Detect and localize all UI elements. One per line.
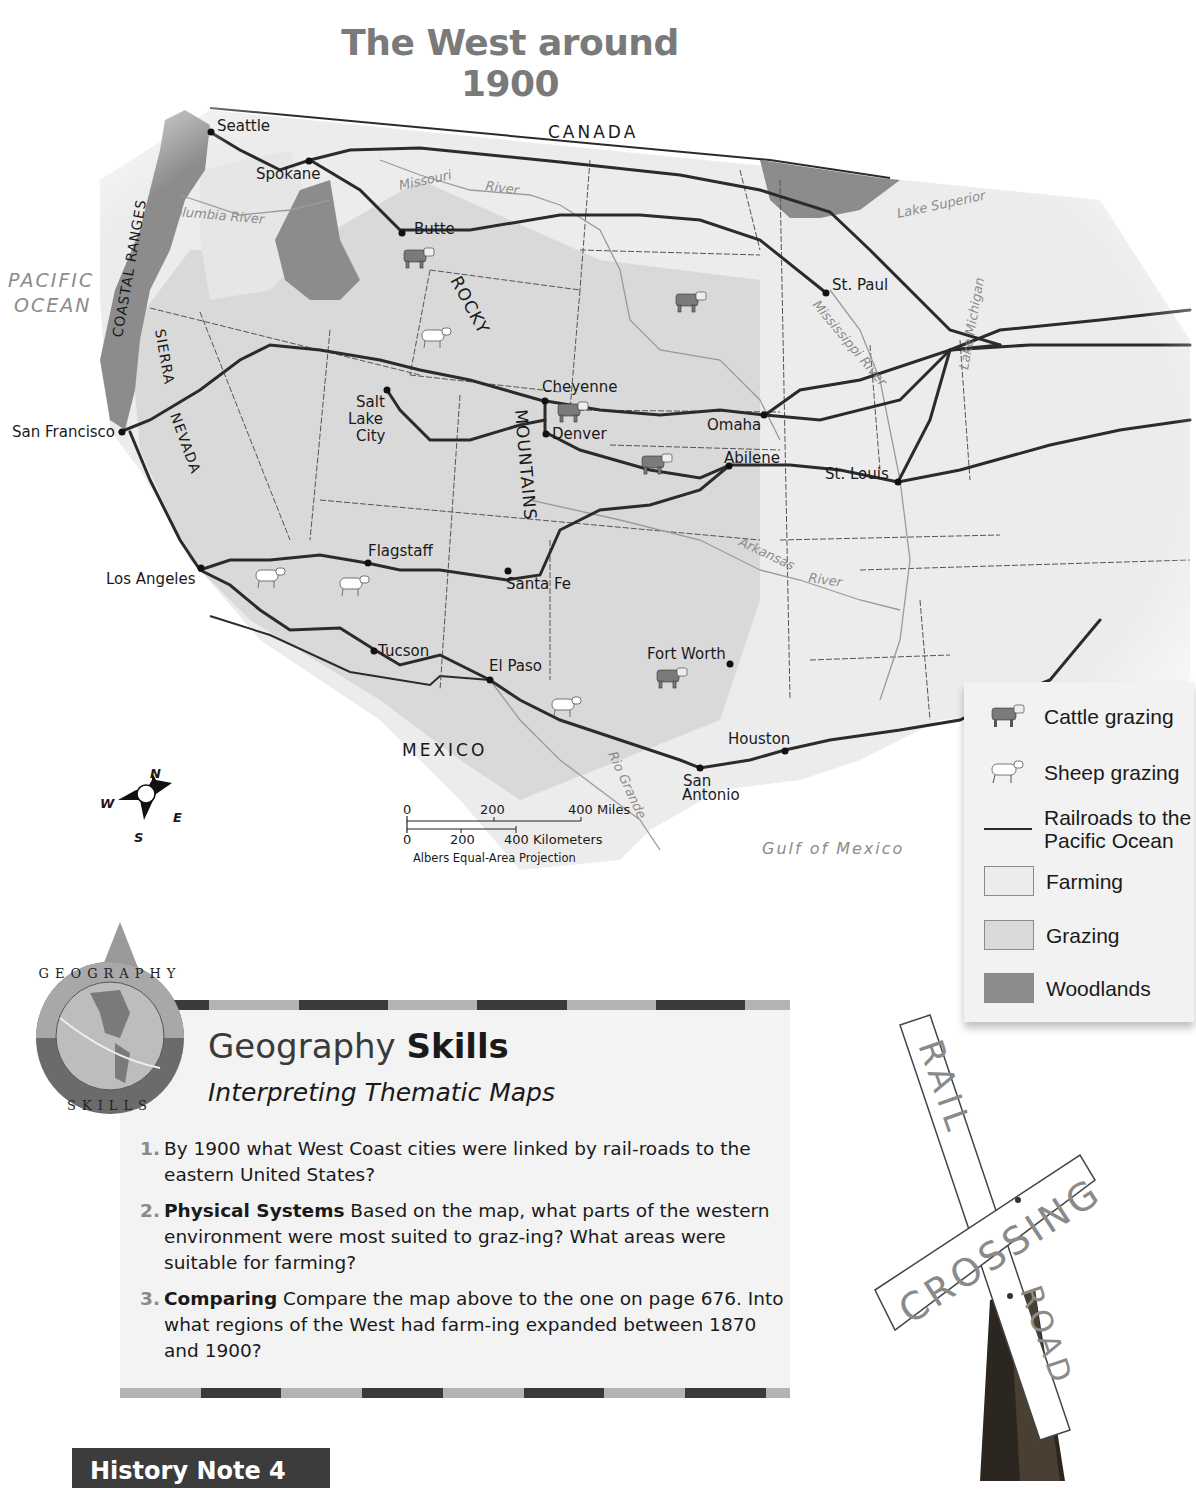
scale-miles-200: 200 bbox=[480, 802, 505, 817]
scale-km-0: 0 bbox=[403, 832, 411, 847]
badge-skills-text: SKILLS bbox=[67, 1098, 153, 1113]
question-number: 3. bbox=[132, 1286, 160, 1312]
legend-sheep: Sheep grazing bbox=[964, 760, 1179, 784]
label-mexico: MEXICO bbox=[402, 740, 487, 760]
legend-label-line2: Pacific Ocean bbox=[1044, 829, 1174, 852]
stripe-bottom bbox=[120, 1388, 790, 1398]
city-tucson: Tucson bbox=[377, 642, 429, 660]
geography-skills-box: Geography Skills Interpreting Thematic M… bbox=[120, 1000, 790, 1398]
city-st-paul: St. Paul bbox=[832, 276, 888, 294]
compass-s: S bbox=[134, 830, 143, 845]
farming-swatch bbox=[984, 866, 1034, 896]
city-santa-fe: Santa Fe bbox=[506, 575, 571, 593]
city-salt-lake-3: City bbox=[356, 427, 386, 445]
history-note-heading: History Note 4 bbox=[72, 1448, 330, 1488]
label-canada: CANADA bbox=[548, 122, 638, 142]
city-el-paso: El Paso bbox=[489, 657, 542, 675]
city-houston: Houston bbox=[728, 730, 790, 748]
city-fort-worth: Fort Worth bbox=[647, 645, 726, 663]
legend-label: Sheep grazing bbox=[1044, 761, 1179, 784]
label-pacific-1: PACIFIC bbox=[8, 269, 94, 291]
city-spokane: Spokane bbox=[256, 165, 321, 183]
legend-label: Railroads to the Pacific Ocean bbox=[1044, 806, 1191, 852]
city-salt-lake-2: Lake bbox=[348, 410, 383, 428]
city-cheyenne: Cheyenne bbox=[542, 378, 618, 396]
compass-e: E bbox=[173, 810, 182, 825]
map-legend: Cattle grazing Sheep grazing Railroads t… bbox=[964, 682, 1194, 1022]
railroad-crossing-sign-photo: RAIL ROAD CROSSING bbox=[860, 1000, 1196, 1481]
scale-miles-400: 400 Miles bbox=[568, 802, 630, 817]
city-san-francisco: San Francisco bbox=[12, 423, 115, 441]
city-salt-lake-1: Salt bbox=[356, 393, 385, 411]
cattle-icon bbox=[984, 704, 1032, 728]
scale-miles-0: 0 bbox=[403, 802, 411, 817]
skills-title-bold: Skills bbox=[407, 1026, 509, 1066]
legend-cattle: Cattle grazing bbox=[964, 704, 1174, 728]
legend-label: Grazing bbox=[1046, 924, 1120, 947]
skills-title: Geography Skills bbox=[208, 1026, 509, 1066]
legend-grazing: Grazing bbox=[964, 920, 1120, 950]
projection-note: Albers Equal-Area Projection bbox=[413, 851, 576, 865]
question-topic: Comparing bbox=[164, 1288, 277, 1309]
city-st-louis: St. Louis bbox=[825, 465, 889, 483]
legend-woodlands: Woodlands bbox=[964, 973, 1151, 1003]
city-los-angeles: Los Angeles bbox=[106, 570, 196, 588]
city-butte: Butte bbox=[414, 220, 455, 238]
geography-skills-badge-icon: GEOGRAPHY SKILLS bbox=[30, 918, 202, 1118]
skills-title-regular: Geography bbox=[208, 1026, 407, 1066]
woodlands-swatch bbox=[984, 973, 1034, 1003]
legend-label: Woodlands bbox=[1046, 977, 1151, 1000]
sheep-icon bbox=[984, 760, 1032, 784]
city-san-antonio-2: Antonio bbox=[682, 786, 740, 804]
question-text: By 1900 what West Coast cities were link… bbox=[164, 1138, 751, 1185]
city-abilene: Abilene bbox=[724, 449, 780, 467]
question-topic: Physical Systems bbox=[164, 1200, 344, 1221]
label-pacific-2: OCEAN bbox=[14, 294, 91, 316]
question-number: 1. bbox=[132, 1136, 160, 1162]
stripe-top bbox=[120, 1000, 790, 1010]
grazing-swatch bbox=[984, 920, 1034, 950]
legend-label: Farming bbox=[1046, 870, 1123, 893]
railroad-line-icon bbox=[984, 824, 1032, 834]
scale-km-200: 200 bbox=[450, 832, 475, 847]
label-gulf: Gulf of Mexico bbox=[762, 839, 904, 858]
question-1: 1. By 1900 what West Coast cities were l… bbox=[164, 1136, 784, 1188]
badge-geography-text: GEOGRAPHY bbox=[39, 966, 182, 981]
question-2: 2. Physical Systems Based on the map, wh… bbox=[164, 1198, 784, 1276]
legend-label-line1: Railroads to the bbox=[1044, 806, 1191, 829]
compass-n: N bbox=[150, 766, 161, 781]
legend-label: Cattle grazing bbox=[1044, 705, 1174, 728]
compass-w: W bbox=[100, 796, 115, 811]
question-number: 2. bbox=[132, 1198, 160, 1224]
city-flagstaff: Flagstaff bbox=[368, 542, 433, 560]
question-3: 3. Comparing Compare the map above to th… bbox=[164, 1286, 784, 1364]
city-denver: Denver bbox=[552, 425, 607, 443]
legend-farming: Farming bbox=[964, 866, 1123, 896]
scale-km-400: 400 Kilometers bbox=[504, 832, 603, 847]
skills-subtitle: Interpreting Thematic Maps bbox=[208, 1078, 555, 1107]
city-seattle: Seattle bbox=[217, 117, 270, 135]
city-omaha: Omaha bbox=[707, 416, 761, 434]
legend-railroad: Railroads to the Pacific Ocean bbox=[964, 806, 1191, 852]
